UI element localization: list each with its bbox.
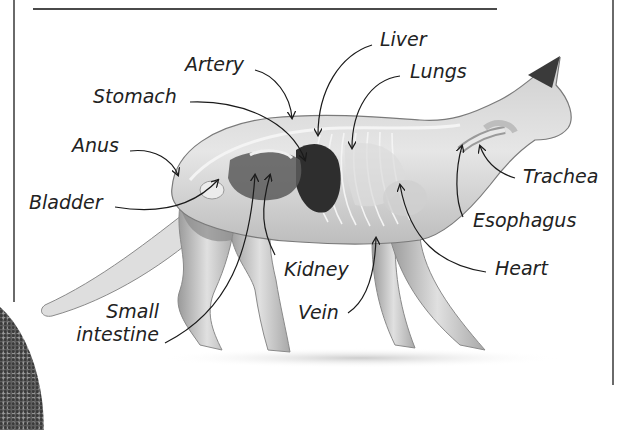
label-lungs: Lungs <box>410 62 467 81</box>
label-liver: Liver <box>380 30 427 49</box>
leader-artery <box>255 70 292 118</box>
label-small-intestine-line2: intestine <box>76 323 159 345</box>
label-kidney: Kidney <box>284 260 349 279</box>
label-anus: Anus <box>72 136 119 155</box>
label-heart: Heart <box>495 259 548 278</box>
label-artery: Artery <box>185 55 244 74</box>
organ-bladder <box>200 181 224 199</box>
label-small-intestine-line1: Small <box>106 300 159 322</box>
label-vein: Vein <box>298 303 339 322</box>
ground-shadow <box>160 348 560 368</box>
leader-anus <box>130 151 178 175</box>
label-small-intestine: Small intestine <box>72 300 159 346</box>
label-esophagus: Esophagus <box>473 211 576 230</box>
label-bladder: Bladder <box>29 193 103 212</box>
organ-heart <box>383 180 427 216</box>
label-trachea: Trachea <box>523 167 598 186</box>
label-stomach: Stomach <box>93 87 177 106</box>
